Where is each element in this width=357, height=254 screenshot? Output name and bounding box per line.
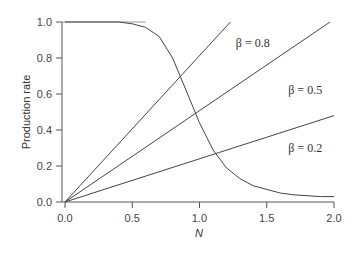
- x-axis-label: N: [195, 227, 203, 239]
- x-tick-label: 0.5: [125, 212, 140, 224]
- y-tick-label: 0.0: [37, 196, 52, 208]
- y-tick-label: 0.6: [37, 88, 52, 100]
- y-tick-label: 0.2: [37, 160, 52, 172]
- x-tick-label: 1.5: [259, 212, 274, 224]
- series-annotation: β = 0.2: [288, 141, 322, 155]
- chart: 0.00.20.40.60.81.00.00.51.01.52.0 β = 0.…: [0, 0, 357, 254]
- y-tick-label: 1.0: [37, 16, 52, 28]
- y-axis-label: Production rate: [20, 75, 32, 150]
- axes: 0.00.20.40.60.81.00.00.51.01.52.0: [37, 16, 342, 224]
- series-annotation: β = 0.5: [288, 83, 322, 97]
- series-lines: [65, 22, 334, 202]
- beta-line-1: [65, 22, 330, 202]
- x-tick-label: 0.0: [57, 212, 72, 224]
- y-tick-label: 0.4: [37, 124, 52, 136]
- x-tick-label: 2.0: [326, 212, 341, 224]
- y-tick-label: 0.8: [37, 52, 52, 64]
- series-labels: β = 0.8β = 0.5β = 0.2: [236, 36, 322, 154]
- x-tick-label: 1.0: [192, 212, 207, 224]
- production-curve: [65, 22, 334, 197]
- series-annotation: β = 0.8: [236, 36, 270, 50]
